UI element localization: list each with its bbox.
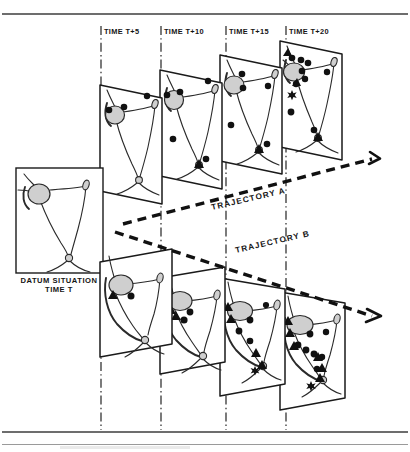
panel-a-t-plus-10: [160, 70, 222, 189]
time-label-group: TIME T+5 TIME T+10 TIME T+15 TIME T+20: [104, 27, 329, 36]
datum-situation-panel: DATUM SITUATION TIME T: [16, 168, 103, 294]
time-label-t-plus-15: TIME T+15: [229, 27, 269, 36]
node-blob-datum: [28, 184, 50, 204]
node-small-datum: [65, 254, 72, 261]
diagram-canvas: TIME T+5 TIME T+10 TIME T+15 TIME T+20: [0, 0, 410, 452]
panel-a-t-plus-20: [280, 41, 342, 160]
panel-b-t-plus-5: [100, 249, 172, 357]
node-small-b2: [199, 352, 206, 359]
panel-b-t-plus-15: [220, 278, 285, 396]
time-label-t-plus-5: TIME T+5: [104, 27, 139, 36]
scan-smudge: [60, 446, 190, 449]
time-label-t-plus-10: TIME T+10: [164, 27, 204, 36]
panel-b-t-plus-20: [280, 292, 345, 410]
figure-root: TIME T+5 TIME T+10 TIME T+15 TIME T+20: [0, 0, 410, 452]
panel-a-t-plus-15: [220, 55, 282, 174]
node-small-a1: [136, 177, 143, 184]
node-small-b1: [141, 336, 148, 343]
time-label-t-plus-20: TIME T+20: [289, 27, 329, 36]
trajectory-a-label: TRAJECTORY A: [210, 186, 286, 212]
trajectory-b-label: TRAJECTORY B: [234, 229, 310, 255]
datum-label-line2: TIME T: [45, 285, 73, 294]
node-blob-a3: [224, 76, 244, 94]
datum-label-line1: DATUM SITUATION: [21, 276, 98, 285]
panel-a-t-plus-5: [100, 85, 162, 204]
